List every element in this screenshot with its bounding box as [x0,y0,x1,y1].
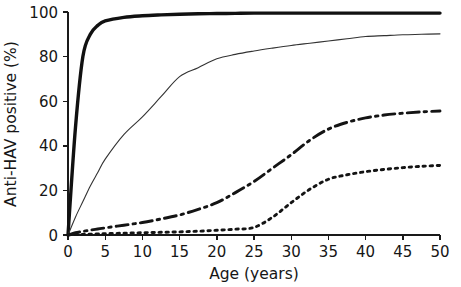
series-group [68,13,440,235]
x-tick-label: 0 [63,243,73,261]
y-tick-label: 80 [39,48,58,66]
series-high-endemicity-curve [68,13,440,235]
y-tick-label: 40 [39,137,58,155]
x-tick-labels: 05101520253035404550 [63,243,449,261]
series-low-endemicity-curve [68,111,440,235]
x-tick-label: 45 [393,243,412,261]
y-axis-group: 020406080100 [29,4,68,245]
y-tick-labels: 020406080100 [29,4,58,245]
x-tick-label: 30 [282,243,301,261]
x-tick-label: 15 [170,243,189,261]
y-tick-label: 60 [39,93,58,111]
hav-seroprevalence-chart: 020406080100 05101520253035404550 Age (y… [0,0,461,287]
x-tick-label: 50 [430,243,449,261]
x-tick-label: 35 [319,243,338,261]
y-tick-label: 0 [48,227,58,245]
y-tick-label: 100 [29,4,58,22]
x-axis-group: 05101520253035404550 [63,235,449,261]
x-tick-label: 10 [133,243,152,261]
y-axis-title: Anti-HAV positive (%) [2,41,20,207]
x-tick-label: 5 [100,243,110,261]
chart-figure: 020406080100 05101520253035404550 Age (y… [0,0,461,287]
series-intermediate-endemicity-curve [68,34,440,235]
x-tick-label: 25 [244,243,263,261]
x-tick-label: 40 [356,243,375,261]
x-tick-label: 20 [207,243,226,261]
y-tick-label: 20 [39,182,58,200]
x-axis-title: Age (years) [209,265,299,283]
